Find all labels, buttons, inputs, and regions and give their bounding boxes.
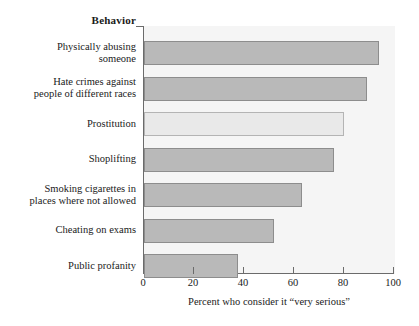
bar-category-label-line1: Physically abusing bbox=[57, 41, 136, 52]
bar bbox=[144, 219, 274, 243]
bar-category-label-line1: Public profanity bbox=[68, 260, 136, 271]
bar-category-label-line2: someone bbox=[0, 53, 136, 65]
x-axis-tick-label: 60 bbox=[273, 277, 313, 288]
bar-category-label: Physically abusingsomeone bbox=[0, 41, 136, 65]
x-axis-tick bbox=[143, 267, 144, 274]
bar-category-label: Hate crimes againstpeople of different r… bbox=[0, 76, 136, 100]
bar-row: Hate crimes againstpeople of different r… bbox=[0, 77, 419, 101]
bar-category-label-line1: Hate crimes against bbox=[53, 76, 136, 87]
bar-category-label: Smoking cigarettes inplaces where not al… bbox=[0, 183, 136, 207]
bar-category-label: Cheating on exams bbox=[0, 224, 136, 236]
bar bbox=[144, 77, 367, 101]
bar-category-label-line1: Shoplifting bbox=[89, 153, 136, 164]
bar-row: Cheating on exams bbox=[0, 219, 419, 243]
x-axis-tick bbox=[243, 267, 244, 274]
x-axis-tick bbox=[343, 267, 344, 274]
category-axis-title: Behavior bbox=[0, 14, 136, 26]
bar-category-label-line1: Cheating on exams bbox=[56, 224, 136, 235]
bar bbox=[144, 148, 334, 172]
bar-category-label-line2: people of different races bbox=[0, 88, 136, 100]
bar-category-label: Shoplifting bbox=[0, 153, 136, 165]
bar-category-label-line1: Prostitution bbox=[87, 118, 136, 129]
bar-row: Smoking cigarettes inplaces where not al… bbox=[0, 183, 419, 207]
bar bbox=[144, 41, 379, 65]
bar bbox=[144, 254, 238, 278]
bar-rows: Physically abusingsomeoneHate crimes aga… bbox=[0, 26, 419, 274]
x-axis-tick-label: 0 bbox=[123, 277, 163, 288]
bar-category-label-line2: places where not allowed bbox=[0, 195, 136, 207]
bar bbox=[144, 112, 344, 136]
x-axis-tick-label: 80 bbox=[323, 277, 363, 288]
bar-chart: Behavior Physically abusingsomeoneHate c… bbox=[0, 0, 419, 326]
bar-row: Shoplifting bbox=[0, 148, 419, 172]
bar-category-label: Public profanity bbox=[0, 260, 136, 272]
bar bbox=[144, 183, 302, 207]
bar-row: Public profanity bbox=[0, 254, 419, 278]
x-axis-title: Percent who consider it “very serious” bbox=[143, 296, 395, 307]
bar-category-label-line1: Smoking cigarettes in bbox=[44, 183, 136, 194]
x-axis-tick bbox=[193, 267, 194, 274]
x-axis-tick-label: 100 bbox=[373, 277, 413, 288]
x-axis-tick-label: 40 bbox=[223, 277, 263, 288]
bar-row: Prostitution bbox=[0, 112, 419, 136]
x-axis-tick-label: 20 bbox=[173, 277, 213, 288]
bar-category-label: Prostitution bbox=[0, 118, 136, 130]
bar-row: Physically abusingsomeone bbox=[0, 41, 419, 65]
x-axis-tick bbox=[293, 267, 294, 274]
